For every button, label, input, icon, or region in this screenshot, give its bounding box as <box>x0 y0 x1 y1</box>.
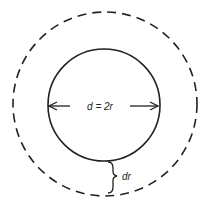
shell-brace <box>108 162 117 193</box>
shell-thickness-label: dr <box>122 171 132 182</box>
diagram-canvas: d = 2r dr <box>0 0 205 205</box>
diameter-label: d = 2r <box>87 101 114 112</box>
